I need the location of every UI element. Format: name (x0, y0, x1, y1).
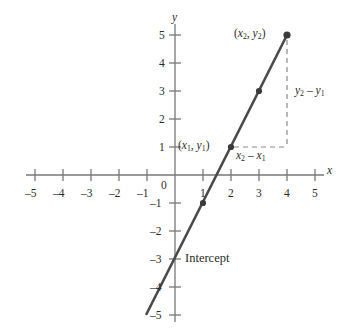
tick-value: 5 (31, 187, 37, 199)
rise-label: y2 – y1 (295, 85, 325, 97)
tick-value: 4 (156, 281, 162, 293)
tick-label-x-neg4: –4 (53, 188, 65, 200)
tick-label-x-neg5: –5 (25, 188, 37, 200)
tick-label-y-neg4: –4 (150, 282, 162, 294)
intercept-label: Intercept (185, 252, 229, 265)
subscript-2: 2 (241, 154, 245, 163)
tick-label-y-neg5: –5 (150, 310, 162, 322)
subscript-1: 1 (202, 144, 206, 153)
tick-value: 2 (156, 225, 162, 237)
data-point-1 (200, 200, 206, 206)
tick-label-x-3: 3 (256, 188, 262, 200)
minus-sign: – (245, 149, 257, 161)
tick-value: 2 (115, 187, 121, 199)
minus-sign: – (304, 84, 316, 96)
coordinate-plane-svg (0, 0, 344, 330)
tick-value: 3 (156, 253, 162, 265)
subscript-2: 2 (300, 89, 304, 98)
var-y1: y (316, 84, 321, 96)
tick-label-y-2: 2 (159, 114, 165, 126)
var-y: y (253, 27, 258, 39)
paren-close: ) (262, 27, 266, 39)
data-point-2 (228, 144, 234, 150)
tick-label-x-4: 4 (284, 188, 290, 200)
tick-value: 4 (59, 187, 65, 199)
var-y: y (197, 139, 202, 151)
y-axis-label: y (172, 12, 177, 24)
point-label-x1-y1: (x1, y1) (178, 140, 209, 152)
tick-value: 1 (143, 187, 149, 199)
subscript-2: 2 (243, 32, 247, 41)
tick-value: 1 (156, 197, 162, 209)
run-label: x2 – x1 (236, 150, 266, 162)
tick-label-y-3: 3 (159, 86, 165, 98)
tick-label-y-5: 5 (159, 30, 165, 42)
tick-label-origin: 0 (161, 180, 167, 192)
linear-equation-graph-figure: y x 0 –5 –4 –3 –2 –1 1 2 3 4 5 5 4 3 2 1… (0, 0, 344, 330)
tick-label-y-1: 1 (159, 142, 165, 154)
var-x1: x (257, 149, 262, 161)
paren-close: ) (206, 139, 210, 151)
tick-label-x-neg1: –1 (137, 188, 149, 200)
tick-label-x-5: 5 (312, 188, 318, 200)
data-point-4 (283, 31, 290, 38)
tick-label-y-neg2: –2 (150, 226, 162, 238)
tick-label-y-neg3: –3 (150, 254, 162, 266)
subscript-1: 1 (262, 154, 266, 163)
point-label-x2-y2: (x2, y2) (234, 28, 265, 40)
subscript-1: 1 (187, 144, 191, 153)
data-point-3 (256, 88, 262, 94)
tick-label-y-4: 4 (159, 58, 165, 70)
x-axis-label: x (327, 165, 332, 177)
subscript-1: 1 (321, 89, 325, 98)
tick-label-x-neg3: –3 (81, 188, 93, 200)
tick-value: 5 (156, 309, 162, 321)
tick-label-x-2: 2 (228, 188, 234, 200)
tick-label-y-neg1: –1 (150, 198, 162, 210)
subscript-2: 2 (258, 32, 262, 41)
tick-label-x-neg2: –2 (109, 188, 121, 200)
tick-value: 3 (87, 187, 93, 199)
tick-label-x-1: 1 (200, 188, 206, 200)
